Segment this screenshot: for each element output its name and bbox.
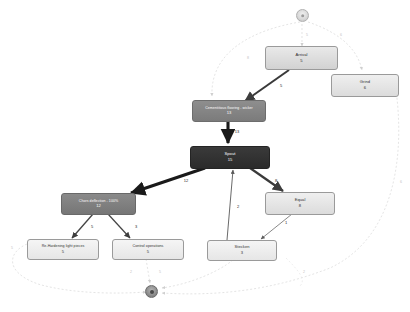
node-grind-label: Grind	[360, 80, 370, 85]
node-arrival-label: Arrival	[296, 53, 308, 58]
edge-label-chors-rehardening: 5	[91, 224, 93, 229]
node-equal[interactable]: Equal 8	[265, 192, 335, 215]
node-spout[interactable]: Spout 15	[190, 146, 270, 169]
node-spout-value: 15	[228, 158, 233, 163]
node-equal-label: Equal	[295, 198, 306, 203]
node-chors-deflection-value: 12	[96, 204, 101, 209]
edge-label-start-arrival: 5	[306, 33, 308, 37]
node-re-hardening-light-pieces-value: 5	[62, 250, 64, 255]
node-stecken[interactable]: Stecken 3	[207, 240, 277, 261]
node-chors-deflection[interactable]: Chors deflection - 100% 12	[61, 193, 136, 215]
node-control-operations-label: Control operations	[132, 244, 163, 248]
end-node-core	[150, 290, 154, 294]
edge-label-equal-stecken: 1	[285, 220, 287, 225]
edge-label-auxiliary: 2	[303, 270, 305, 274]
end-node[interactable]	[145, 285, 158, 298]
node-grind-value: 6	[364, 86, 366, 91]
node-stecken-label: Stecken	[234, 245, 249, 250]
edge-label-spout-chors: 12	[184, 178, 188, 183]
diagram-canvas: Arrival 5 Grind 6 Cementitious flooring …	[0, 0, 410, 312]
node-chors-deflection-label: Chors deflection - 100%	[79, 199, 119, 203]
edge-label-chors-control: 3	[135, 224, 137, 229]
node-grind[interactable]: Grind 6	[331, 74, 399, 97]
node-re-hardening-light-pieces[interactable]: Re-Hardening light pieces 5	[27, 239, 99, 260]
start-node-core	[301, 14, 305, 18]
node-cementitious-flooring-label: Cementitious flooring - wicker	[205, 106, 252, 110]
edge-label-stecken-spout: 2	[237, 204, 239, 209]
node-control-operations[interactable]: Control operations 5	[112, 239, 184, 260]
node-arrival[interactable]: Arrival 5	[265, 46, 338, 70]
edge-label-stecken-end: 2	[130, 270, 132, 274]
edge-label-rehardening-end: 5	[11, 246, 13, 250]
node-stecken-value: 3	[241, 251, 243, 256]
edge-label-start-cementitious: 8	[247, 56, 249, 60]
edge-label-start-grind: 6	[340, 33, 342, 37]
node-arrival-value: 5	[300, 59, 302, 64]
node-cementitious-flooring[interactable]: Cementitious flooring - wicker 13	[192, 100, 266, 122]
edge-label-control-end: 5	[159, 270, 161, 274]
start-node[interactable]	[296, 9, 309, 22]
edge-label-arrival-cementitious: 5	[280, 83, 282, 88]
node-cementitious-flooring-value: 13	[227, 111, 232, 116]
node-control-operations-value: 5	[147, 250, 149, 255]
node-re-hardening-light-pieces-label: Re-Hardening light pieces	[42, 244, 85, 248]
edge-label-spout-equal: 8	[275, 178, 277, 183]
edge-label-grind-end: 6	[400, 180, 402, 184]
edge-label-cementitious-spout: 13	[235, 129, 239, 134]
node-spout-label: Spout	[225, 152, 236, 157]
node-equal-value: 8	[299, 204, 301, 209]
